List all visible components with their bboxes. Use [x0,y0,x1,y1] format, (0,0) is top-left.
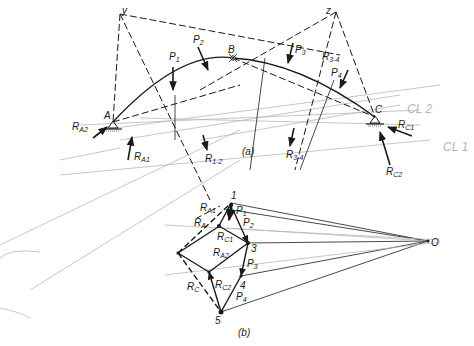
label-r12: R1-2 [205,153,222,165]
vertex-1-label: 1 [231,190,237,201]
arrow-ra1 [128,137,132,160]
arrow-r34 [290,128,294,146]
part-a-arch: y z A B C P1 P2 P3 P4 R3-4 R1-2 R3-4 RA2… [0,5,468,318]
label-ra2: RA2 [72,121,88,133]
label-b-p3: P3 [247,258,258,270]
label-r34: R3-4 [286,149,303,161]
caption-b: (b) [238,327,250,338]
label-ra1: RA1 [134,151,150,163]
label-rc1: RC1 [398,119,414,131]
hinge-a [104,121,122,131]
label-b-ra: RA [194,217,206,229]
point-a-label: A [103,110,111,121]
pencil-note-cl2: CL 2 [407,102,432,116]
vertex-3-label: 3 [251,243,257,254]
pencil-note-cl1: CL 1 [443,140,468,154]
hinge-c [366,116,384,126]
point-z-label: z [325,5,331,16]
label-b-ra2: RA2 [213,247,229,259]
label-p2: P2 [193,34,204,46]
vertex-5-label: 5 [215,315,221,326]
vertex-2-label: 2 [226,206,233,217]
pole-o-label: O [431,237,439,248]
label-p1: P1 [169,51,180,63]
arrow-ra2 [93,127,107,138]
label-b-p1: P1 [236,205,247,217]
caption-a: (a) [242,146,254,157]
label-p4: P4 [331,67,342,79]
label-b-rc2: RC2 [215,279,231,291]
label-rc2: RC2 [386,166,402,178]
arch-diagram: y z A B C P1 P2 P3 P4 R3-4 R1-2 R3-4 RA2… [0,0,474,346]
point-b-label: B [228,44,235,55]
point-y-label: y [121,5,128,16]
arrow-rc2 [380,132,390,165]
label-b-ra1: RA1 [200,202,216,214]
label-p3: P3 [295,44,306,56]
point-c-label: C [375,104,383,115]
funicular-rays [165,203,440,312]
label-b-p2: P2 [243,217,254,229]
part-b-force-polygon: 1 2 3 4 5 O P1 P2 P3 P4 RA1 RA RC1 RA2 R… [165,190,440,338]
vertex-4-label: 4 [240,280,246,291]
label-b-p4: P4 [236,291,247,303]
label-b-rc: RC [187,281,200,293]
